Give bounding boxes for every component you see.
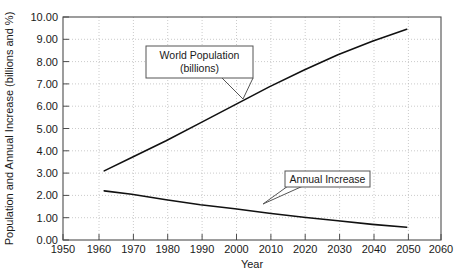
x-tick-label: 1980: [155, 243, 179, 255]
y-tick-label: 3.00: [37, 167, 58, 179]
y-tick-label: 8.00: [37, 56, 58, 68]
x-tick-label: 2010: [259, 243, 283, 255]
y-tick-label: 6.00: [37, 100, 58, 112]
y-tick-label: 1.00: [37, 212, 58, 224]
y-tick-label: 10.00: [30, 11, 58, 23]
x-tick-label: 1950: [51, 243, 75, 255]
chart-figure: 10.00 9.00 8.00 7.00 6.00 5.00 4.00 3.00…: [0, 0, 471, 280]
x-tick-label: 2020: [293, 243, 317, 255]
y-axis-tick-labels: 10.00 9.00 8.00 7.00 6.00 5.00 4.00 3.00…: [30, 11, 58, 246]
y-tick-label: 5.00: [37, 123, 58, 135]
x-tick-label: 2000: [224, 243, 248, 255]
y-axis-ticks: [63, 17, 69, 240]
chart-svg: 10.00 9.00 8.00 7.00 6.00 5.00 4.00 3.00…: [0, 0, 471, 280]
population-callout-line-2: (billions): [180, 62, 219, 74]
x-tick-label: 1990: [190, 243, 214, 255]
y-tick-label: 2.00: [37, 189, 58, 201]
y-tick-label: 4.00: [37, 145, 58, 157]
x-tick-label: 2060: [429, 243, 453, 255]
annotation-population-callout: World Population (billions): [146, 46, 253, 99]
annual-increase-callout-label: Annual Increase: [290, 173, 366, 185]
x-tick-label: 1960: [87, 243, 111, 255]
annotation-annual-increase-callout: Annual Increase: [263, 171, 370, 204]
x-tick-label: 2050: [396, 243, 420, 255]
population-callout-line-1: World Population: [160, 49, 240, 61]
y-tick-label: 9.00: [37, 33, 58, 45]
y-tick-label: 7.00: [37, 78, 58, 90]
x-tick-label: 1970: [121, 243, 145, 255]
x-axis-ticks: [63, 234, 441, 240]
annual-increase-callout-pointer: [263, 186, 303, 204]
x-tick-label: 2030: [327, 243, 351, 255]
vertical-gridlines: [99, 17, 408, 240]
series-line-annual-increase: [104, 191, 407, 227]
y-axis-title: Population and Annual Increase (billions…: [3, 12, 15, 246]
x-axis-tick-labels: 1950 1960 1970 1980 1990 2000 2010 2020 …: [51, 243, 453, 255]
x-tick-label: 2040: [362, 243, 386, 255]
x-axis-title: Year: [241, 258, 264, 270]
population-callout-pointer: [222, 78, 253, 99]
